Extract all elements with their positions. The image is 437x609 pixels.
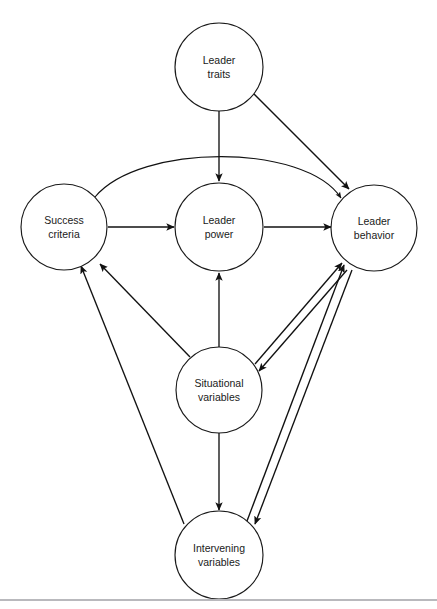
node-success-criteria[interactable]: Success criteria [21,184,107,270]
edge-layer [81,94,352,524]
node-situational-variables-label-line2: variables [198,391,240,403]
edge-situational-variables-to-success-criteria [100,264,190,357]
edge-intervening-variables-to-success-criteria [81,266,184,524]
edge-intervening-variables-leader-behavior-pair [247,265,352,524]
node-success-criteria-label-line1: Success [44,214,84,226]
edge-situational-variables-to-leader-behavior [255,263,342,364]
node-leader-power[interactable]: Leader power [175,183,263,271]
node-leader-traits-label-line1: Leader [203,54,236,66]
node-leader-traits-label-line2: traits [208,68,231,80]
edge-leader-behavior-to-situational-variables [259,270,347,371]
leadership-model-diagram: Leader traits Success criteria Leader po… [0,0,437,609]
node-leader-traits[interactable]: Leader traits [175,23,263,111]
node-intervening-variables-label-line2: variables [198,556,240,568]
node-situational-variables-label-line1: Situational [194,377,243,389]
node-success-criteria-label-line2: criteria [48,228,80,240]
edge-leader-traits-to-leader-behavior [254,94,349,189]
node-leader-behavior[interactable]: Leader behavior [331,185,417,271]
edge-situational-variables-leader-behavior-pair [255,263,347,371]
node-intervening-variables-label-line1: Intervening [193,542,245,554]
node-leader-power-label-line2: power [205,228,234,240]
node-situational-variables[interactable]: Situational variables [176,347,262,433]
node-intervening-variables[interactable]: Intervening variables [175,511,263,599]
diagram-canvas: Leader traits Success criteria Leader po… [0,0,437,609]
node-leader-behavior-label-line2: behavior [354,229,395,241]
node-leader-power-label-line1: Leader [203,214,236,226]
node-leader-behavior-label-line1: Leader [358,215,391,227]
